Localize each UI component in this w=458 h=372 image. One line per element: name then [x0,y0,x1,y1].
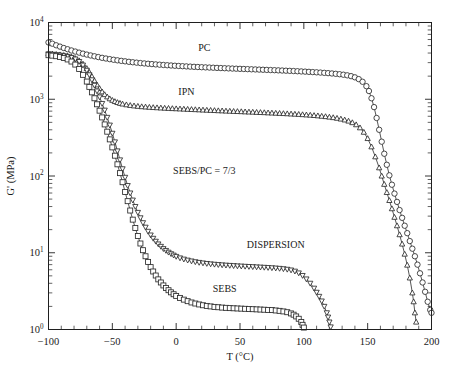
data-point-circle [397,207,402,212]
data-point-circle [360,79,365,84]
x-tick-label: 50 [235,336,246,347]
x-tick-label: 200 [424,336,440,347]
figure-container: −100−50050100150200100101102103104 PCIPN… [0,0,458,372]
dma-storage-modulus-chart: −100−50050100150200100101102103104 PCIPN… [0,0,458,372]
data-point-square [89,90,94,95]
data-point-square [135,234,140,239]
data-point-circle [420,280,425,285]
x-tick-label: 150 [360,336,376,347]
data-point-square [120,180,125,185]
data-point-square [92,96,97,101]
data-point-square [80,72,85,77]
data-point-square [128,208,133,213]
x-tick-label: 100 [296,336,312,347]
data-point-square [115,162,120,167]
x-tick-label: −100 [38,336,60,347]
data-point-circle [412,254,417,259]
data-point-circle [410,246,415,251]
data-point-square [140,248,145,253]
data-point-square [84,79,89,84]
data-point-circle [376,127,381,132]
data-point-square [100,115,105,120]
annotation-composition: SEBS/PC = 7/3 [173,165,235,176]
data-point-circle [415,262,420,267]
annotation-sebs: SEBS [213,283,237,294]
data-point-circle [402,223,407,228]
data-point-square [110,145,115,150]
data-point-square [107,137,112,142]
x-tick-label: −50 [104,336,120,347]
data-point-square [97,108,102,113]
data-point-circle [369,96,374,101]
annotation-dispersion: DISPERSION [247,239,305,250]
data-point-square [146,259,151,264]
data-point-circle [399,215,404,220]
data-point-square [95,102,100,107]
annotation-ipn: IPN [178,86,194,97]
data-point-square [117,171,122,176]
data-point-square [143,254,148,259]
data-point-square [125,199,130,204]
data-point-square [123,189,128,194]
data-point-square [105,129,110,134]
data-point-circle [379,139,384,144]
data-point-circle [382,151,387,156]
data-point-circle [371,104,376,109]
data-point-circle [389,182,394,187]
data-point-circle [394,199,399,204]
data-point-circle [387,173,392,178]
data-point-circle [374,115,379,120]
x-axis-title: T (°C) [226,351,254,363]
annotation-pc: PC [198,42,211,53]
data-point-square [138,241,143,246]
data-point-circle [366,88,371,93]
data-point-square [130,217,135,222]
data-point-circle [405,230,410,235]
data-point-circle [392,191,397,196]
data-point-circle [422,289,427,294]
data-point-circle [425,299,430,304]
data-point-square [87,84,92,89]
y-axis-title: G' (MPa) [5,156,17,195]
data-point-square [112,153,117,158]
x-tick-label: 0 [174,336,179,347]
data-point-circle [417,271,422,276]
data-point-square [133,226,138,231]
data-point-square [102,122,107,127]
data-point-square [77,66,82,71]
data-point-circle [407,238,412,243]
data-point-circle [384,162,389,167]
